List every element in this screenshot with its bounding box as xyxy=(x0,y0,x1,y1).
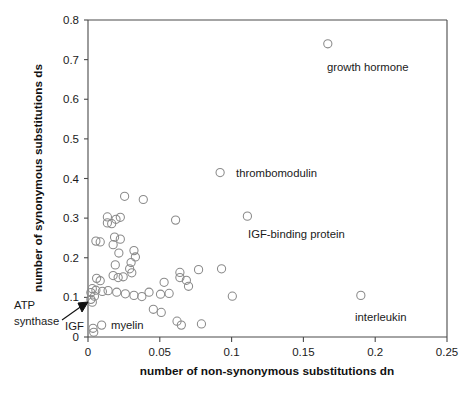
data-point xyxy=(149,305,157,313)
data-point xyxy=(110,233,118,241)
y-tick-label: 0 xyxy=(73,331,79,343)
label-thrombomodulin: thrombomodulin xyxy=(236,167,317,179)
label-myelin: myelin xyxy=(111,319,144,331)
x-tick-label: 0 xyxy=(85,346,91,358)
data-points-group xyxy=(87,40,365,337)
label-igf-binding-protein: IGF-binding protein xyxy=(248,228,345,240)
data-point xyxy=(197,320,205,328)
data-point xyxy=(121,192,129,200)
data-point xyxy=(139,195,147,203)
data-point xyxy=(109,241,117,249)
data-point xyxy=(217,265,225,273)
x-axis-ticks: 00.050.10.150.20.25 xyxy=(85,337,458,358)
label-atp-synthase-line1: ATP xyxy=(14,299,35,311)
x-tick-label: 0.2 xyxy=(367,346,383,358)
x-tick-label: 0.15 xyxy=(292,346,314,358)
x-tick-label: 0.1 xyxy=(224,346,240,358)
data-point xyxy=(160,278,168,286)
data-point xyxy=(156,290,164,298)
data-point xyxy=(116,235,124,243)
label-growth-hormone: growth hormone xyxy=(327,61,409,73)
y-axis-ticks: 00.10.20.30.40.50.60.70.8 xyxy=(63,14,88,343)
data-point xyxy=(104,287,112,295)
data-point-interleukin xyxy=(357,291,365,299)
label-atp-synthase-line2: synthase xyxy=(14,315,59,327)
data-point xyxy=(172,216,180,224)
data-point xyxy=(145,288,153,296)
data-point xyxy=(121,290,129,298)
data-point-thrombomodulin xyxy=(216,168,224,176)
data-point-myelin xyxy=(98,321,106,329)
y-tick-label: 0.6 xyxy=(63,93,79,105)
data-point-growth-hormone xyxy=(324,40,332,48)
y-tick-label: 0.4 xyxy=(63,173,80,185)
data-point xyxy=(111,261,119,269)
data-point xyxy=(115,249,123,257)
data-point xyxy=(130,291,138,299)
y-tick-label: 0.7 xyxy=(63,54,79,66)
data-point xyxy=(228,292,236,300)
data-point xyxy=(157,308,165,316)
data-point xyxy=(165,289,173,297)
label-interleukin: interleukin xyxy=(355,311,407,323)
data-point xyxy=(109,271,117,279)
x-axis-title: number of non-synonymous substitutions d… xyxy=(140,364,394,378)
y-tick-label: 0.1 xyxy=(63,291,79,303)
y-tick-label: 0.8 xyxy=(63,14,79,26)
data-point xyxy=(194,266,202,274)
atp-synthase-arrow-head xyxy=(78,302,88,312)
x-tick-label: 0.25 xyxy=(436,346,458,358)
y-tick-label: 0.2 xyxy=(63,252,79,264)
y-tick-label: 0.5 xyxy=(63,133,79,145)
scatter-plot-figure: 00.10.20.30.40.50.60.70.8 00.050.10.150.… xyxy=(0,0,473,395)
data-point xyxy=(119,273,127,281)
y-axis-title: number of synonymous substitutions ds xyxy=(31,64,45,293)
x-tick-label: 0.05 xyxy=(149,346,171,358)
y-tick-label: 0.3 xyxy=(63,212,79,224)
plot-canvas: 00.10.20.30.40.50.60.70.8 00.050.10.150.… xyxy=(0,0,473,395)
data-point-igf-binding-protein xyxy=(243,212,251,220)
label-igf: IGF xyxy=(65,320,84,332)
data-point xyxy=(113,288,121,296)
